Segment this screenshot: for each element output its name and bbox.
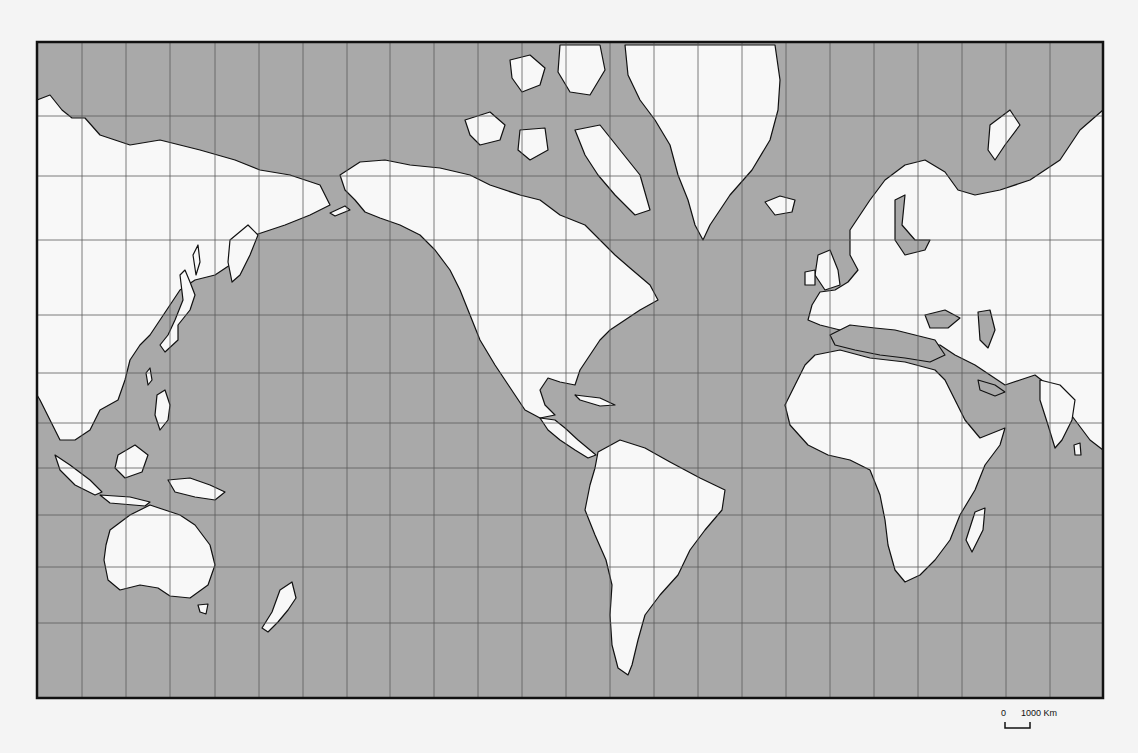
- land-sri-lanka: [1074, 443, 1081, 455]
- land-ireland: [805, 270, 815, 285]
- scale-zero-label: 0: [1001, 708, 1006, 718]
- world-map: [0, 0, 1138, 753]
- scale-bar: [1005, 722, 1030, 728]
- scale-bar-line: [1005, 722, 1030, 728]
- scale-distance-label: 1000 Km: [1021, 708, 1057, 718]
